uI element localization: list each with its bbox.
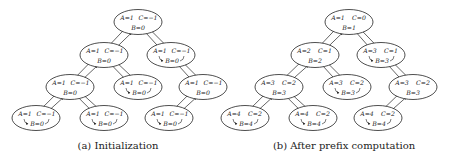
tree-diagram-canvas: A=1C=−1B=0A=1C=−1B=0A=1C=−1B=0A=1C=−1B=0… <box>0 0 458 155</box>
node-value-a: A=1 <box>85 110 100 117</box>
tree-node: A=4C=2B=4 <box>354 106 402 131</box>
tree-node: A=4C=2B=4 <box>221 106 269 131</box>
node-value-a: A=4 <box>226 110 241 117</box>
node-value-c: C=−1 <box>171 47 190 54</box>
node-value-b: B=2 <box>307 57 322 64</box>
node-value-b: B=0 <box>162 120 177 127</box>
node-value-b: B=4 <box>238 120 253 127</box>
tree-node: A=1C=0B=1 <box>325 10 373 35</box>
node-value-b: B=4 <box>306 120 321 127</box>
tree-node: A=1C=−1B=0 <box>179 75 227 100</box>
tree-node: A=1C=−1B=0 <box>147 43 195 68</box>
node-value-c: C=−1 <box>104 110 123 117</box>
node-value-c: C=2 <box>381 110 395 117</box>
tree-node: A=1C=−1B=0 <box>114 10 162 35</box>
node-value-a: A=1 <box>184 79 199 86</box>
node-value-a: A=1 <box>51 79 66 86</box>
node-value-b: B=4 <box>371 120 386 127</box>
node-value-c: C=2 <box>282 79 296 86</box>
node-value-b: B=0 <box>164 57 179 64</box>
node-value-b: B=0 <box>130 24 145 31</box>
node-value-c: C=−1 <box>138 79 157 86</box>
node-value-b: B=0 <box>195 89 210 96</box>
node-value-a: A=3 <box>394 79 409 86</box>
node-value-a: A=1 <box>17 110 32 117</box>
node-value-a: A=4 <box>359 110 374 117</box>
node-value-c: C=1 <box>318 47 332 54</box>
caption-b: (b) After prefix computation <box>273 140 416 151</box>
node-value-a: A=1 <box>85 47 100 54</box>
node-value-b: B=1 <box>341 24 356 31</box>
node-value-b: B=3 <box>405 89 420 96</box>
node-value-b: B=3 <box>271 89 286 96</box>
node-value-c: C=−1 <box>203 79 222 86</box>
node-value-a: A=1 <box>119 14 134 21</box>
node-value-c: C=2 <box>248 110 262 117</box>
node-value-c: C=2 <box>350 79 364 86</box>
node-value-b: B=0 <box>29 120 44 127</box>
node-value-a: A=4 <box>294 110 309 117</box>
node-value-b: B=3 <box>340 89 355 96</box>
node-value-c: C=−1 <box>36 110 55 117</box>
node-value-a: A=1 <box>330 14 345 21</box>
node-value-b: B=0 <box>62 89 77 96</box>
node-value-b: B=0 <box>97 120 112 127</box>
tree-node: A=1C=−1B=0 <box>80 43 128 68</box>
node-value-b: B=3 <box>374 57 389 64</box>
node-value-a: A=3 <box>328 79 343 86</box>
tree-node: A=3C=2B=3 <box>389 75 437 100</box>
tree-node: A=2C=1B=2 <box>291 43 339 68</box>
node-value-a: A=1 <box>152 47 167 54</box>
node-value-a: A=3 <box>260 79 275 86</box>
figure-a-initialization: A=1C=−1B=0A=1C=−1B=0A=1C=−1B=0A=1C=−1B=0… <box>12 10 227 131</box>
node-value-c: C=0 <box>352 14 366 21</box>
node-value-a: A=1 <box>150 110 165 117</box>
node-value-c: C=2 <box>316 110 330 117</box>
node-value-b: B=0 <box>131 89 146 96</box>
tree-node: A=1C=−1B=0 <box>145 106 193 131</box>
figure-b-after-prefix: A=1C=0B=1A=2C=1B=2A=3C=1B=3A=3C=2B=3A=3C… <box>221 10 437 131</box>
tree-node: A=1C=−1B=0 <box>46 75 94 100</box>
tree-node: A=3C=2B=3 <box>255 75 303 100</box>
tree-node: A=1C=−1B=0 <box>114 75 162 100</box>
tree-node: A=4C=2B=4 <box>289 106 337 131</box>
node-value-c: C=1 <box>384 47 398 54</box>
node-value-c: C=−1 <box>70 79 89 86</box>
tree-node: A=3C=2B=3 <box>323 75 371 100</box>
node-value-a: A=1 <box>119 79 134 86</box>
caption-a: (a) Initialization <box>77 140 159 151</box>
node-value-a: A=2 <box>296 47 311 54</box>
node-value-c: C=−1 <box>104 47 123 54</box>
tree-node: A=1C=−1B=0 <box>80 106 128 131</box>
tree-node: A=1C=−1B=0 <box>12 106 60 131</box>
node-value-c: C=2 <box>416 79 430 86</box>
node-value-b: B=0 <box>96 57 111 64</box>
node-value-c: C=−1 <box>169 110 188 117</box>
node-value-a: A=3 <box>362 47 377 54</box>
node-value-c: C=−1 <box>138 14 157 21</box>
tree-node: A=3C=1B=3 <box>357 43 405 68</box>
